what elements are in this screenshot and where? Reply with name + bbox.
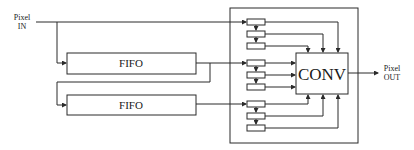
pixel-out-label: Pixel OUT bbox=[384, 64, 401, 82]
convolution-pipeline-diagram: Pixel IN FIFO FIFO bbox=[0, 0, 414, 150]
svg-text:Pixel: Pixel bbox=[384, 64, 401, 73]
svg-text:FIFO: FIFO bbox=[119, 99, 143, 111]
register-group-2 bbox=[247, 60, 295, 90]
svg-text:CONV: CONV bbox=[298, 65, 347, 84]
fifo-2-block: FIFO bbox=[67, 95, 196, 115]
conv-block: CONV bbox=[296, 53, 348, 94]
register-group-3 bbox=[247, 95, 338, 131]
svg-text:IN: IN bbox=[18, 22, 27, 31]
fifo-1-block: FIFO bbox=[67, 53, 196, 74]
svg-text:OUT: OUT bbox=[384, 73, 401, 82]
svg-text:Pixel: Pixel bbox=[14, 13, 31, 22]
pixel-in-label: Pixel IN bbox=[14, 13, 31, 31]
register-group-1 bbox=[247, 19, 338, 52]
svg-text:FIFO: FIFO bbox=[119, 57, 143, 69]
